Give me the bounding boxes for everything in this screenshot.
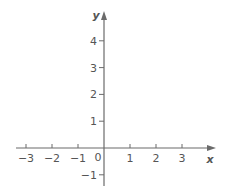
y-axis-arrow-icon — [101, 11, 107, 20]
x-tick-label: 1 — [127, 152, 134, 165]
y-tick-label: 4 — [90, 35, 97, 48]
x-axis-label: x — [205, 153, 214, 166]
y-tick-label: 3 — [90, 62, 97, 75]
x-tick-label: 3 — [179, 152, 186, 165]
y-tick-label: −1 — [81, 169, 97, 182]
y-tick-label: 2 — [90, 88, 97, 101]
x-tick-label: −1 — [70, 152, 86, 165]
coordinate-plane: −3−2−1123 4321−1 0 x y — [0, 0, 225, 190]
y-axis-label: y — [92, 9, 100, 22]
x-ticks: −3−2−1123 — [18, 144, 186, 165]
x-axis-arrow-icon — [207, 145, 216, 151]
y-tick-label: 1 — [90, 115, 97, 128]
x-tick-label: 2 — [153, 152, 160, 165]
origin-label: 0 — [95, 151, 102, 164]
x-tick-label: −2 — [44, 152, 60, 165]
x-tick-label: −3 — [18, 152, 34, 165]
